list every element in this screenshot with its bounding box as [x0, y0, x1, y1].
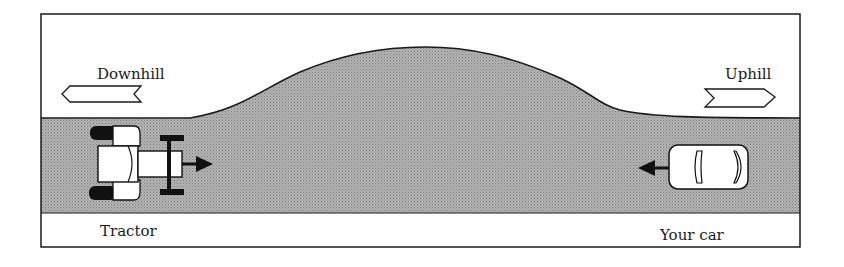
hill-diagram: Downhill Uphill Tractor Your car	[0, 0, 844, 267]
arrow-left-icon	[62, 86, 141, 102]
tractor-label: Tractor	[100, 222, 158, 240]
arrow-right-icon	[705, 89, 775, 107]
your-car-label: Your car	[659, 226, 725, 244]
downhill-label: Downhill	[97, 65, 165, 83]
uphill-label: Uphill	[725, 65, 771, 83]
